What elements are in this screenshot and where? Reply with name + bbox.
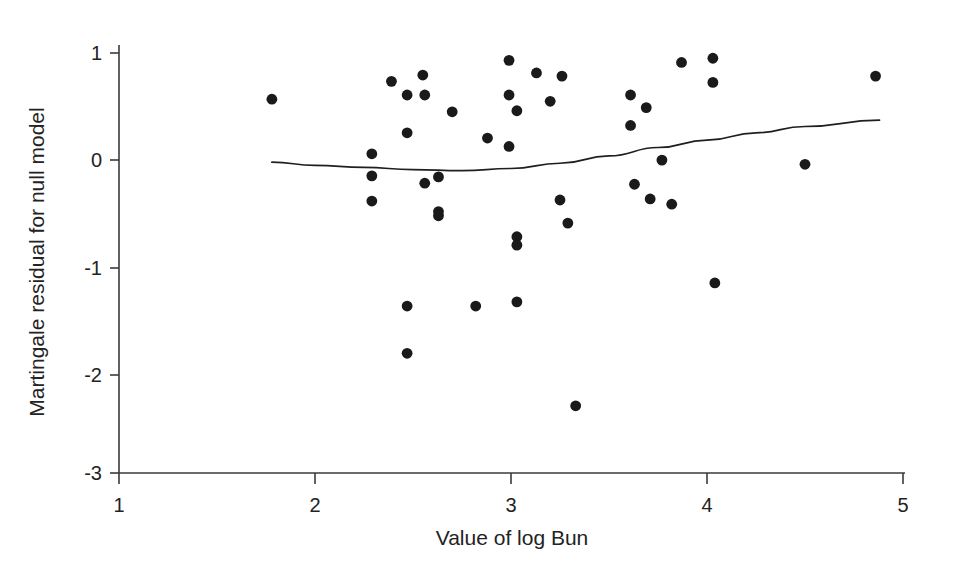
data-point (402, 348, 413, 359)
data-point (545, 96, 556, 107)
data-point (419, 178, 430, 189)
data-point (366, 170, 377, 181)
data-point (641, 102, 652, 113)
data-point (709, 278, 720, 289)
data-point (417, 70, 428, 81)
y-tick-label: 0 (91, 149, 102, 171)
data-point (657, 155, 668, 166)
data-point (447, 106, 458, 117)
data-point (366, 148, 377, 159)
data-point (504, 90, 515, 101)
data-point (511, 240, 522, 251)
data-point (419, 90, 430, 101)
data-point (666, 199, 677, 210)
data-point (504, 141, 515, 152)
data-point (562, 218, 573, 229)
plot-background (0, 0, 957, 575)
data-point (433, 172, 444, 183)
y-tick-label: -1 (84, 257, 102, 279)
data-point (800, 159, 811, 170)
x-tick-label: 5 (897, 494, 908, 516)
data-point (629, 179, 640, 190)
y-tick-label: -3 (84, 462, 102, 484)
data-point (676, 57, 687, 68)
data-point (366, 196, 377, 207)
data-point (625, 90, 636, 101)
data-point (402, 90, 413, 101)
x-tick-label: 4 (701, 494, 712, 516)
chart-canvas: 1 0 -1 -2 -3 1 2 3 4 5 Value of log Bun … (0, 0, 957, 575)
data-point (707, 53, 718, 64)
data-point (433, 210, 444, 221)
data-point (402, 127, 413, 138)
data-point (402, 301, 413, 312)
scatter-plot-figure: 1 0 -1 -2 -3 1 2 3 4 5 Value of log Bun … (0, 0, 957, 575)
x-tick-label: 2 (309, 494, 320, 516)
data-point (555, 195, 566, 206)
data-point (570, 400, 581, 411)
x-axis-title: Value of log Bun (436, 526, 589, 549)
data-point (511, 105, 522, 116)
data-point (625, 120, 636, 131)
data-point (470, 301, 481, 312)
data-point (504, 55, 515, 66)
data-point (482, 133, 493, 144)
y-tick-label: 1 (91, 42, 102, 64)
data-point (645, 194, 656, 205)
x-tick-label: 3 (505, 494, 516, 516)
data-point (557, 71, 568, 82)
y-tick-label: -2 (84, 364, 102, 386)
data-point (707, 77, 718, 88)
data-point (511, 296, 522, 307)
y-axis-title: Martingale residual for null model (25, 107, 48, 416)
data-point (266, 94, 277, 105)
data-point (531, 68, 542, 79)
x-tick-label: 1 (113, 494, 124, 516)
data-point (386, 76, 397, 87)
data-point (870, 71, 881, 82)
